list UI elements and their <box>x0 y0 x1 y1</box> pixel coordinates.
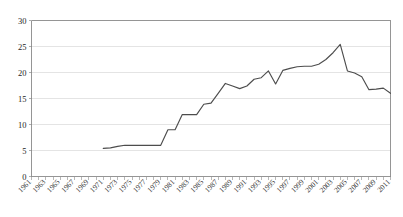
y-tick-label: 10 <box>18 120 27 130</box>
y-tick-label: 5 <box>22 146 26 156</box>
x-tick-label: 1999 <box>289 177 306 194</box>
x-tick-label: 1985 <box>188 177 205 194</box>
y-tick-label: 30 <box>18 16 27 26</box>
x-tick-label: 1987 <box>203 177 220 194</box>
x-tick-label: 1991 <box>231 177 248 194</box>
gridlines <box>32 47 391 151</box>
x-tick-label: 2009 <box>361 177 378 194</box>
y-tick-label: 25 <box>18 42 27 52</box>
y-tick-label: 20 <box>18 68 27 78</box>
series-line-1 <box>103 44 390 148</box>
x-tick-label: 1995 <box>260 177 277 194</box>
chart-canvas: 051015202530 196119631965196719691971197… <box>0 0 403 217</box>
x-tick-label: 1983 <box>174 177 191 194</box>
x-tick-label: 1969 <box>74 177 91 194</box>
x-tick-label: 1963 <box>30 177 47 194</box>
x-tick-label: 1997 <box>275 177 292 194</box>
x-tick-label: 1961 <box>16 177 33 194</box>
x-tick-label: 1971 <box>88 177 105 194</box>
x-tick-label: 2005 <box>332 177 349 194</box>
data-series <box>103 44 390 148</box>
x-tick-label: 1975 <box>117 177 134 194</box>
x-tick-label: 1965 <box>45 177 62 194</box>
x-tick-label: 2001 <box>303 177 320 194</box>
y-axis-tick-labels: 051015202530 <box>18 16 27 182</box>
line-chart: 051015202530 196119631965196719691971197… <box>0 0 403 217</box>
x-tick-label: 1981 <box>160 177 177 194</box>
y-tick-label: 15 <box>18 94 27 104</box>
x-tick-label: 2011 <box>375 177 392 194</box>
x-tick-label: 2003 <box>318 177 335 194</box>
x-tick-label: 2007 <box>346 177 363 194</box>
x-tick-label: 1979 <box>145 177 162 194</box>
x-tick-label: 1973 <box>102 177 119 194</box>
x-axis-tick-labels: 1961196319651967196919711973197519771979… <box>16 177 392 194</box>
x-tick-label: 1993 <box>246 177 263 194</box>
x-tick-label: 1977 <box>131 177 148 194</box>
x-tick-label: 1989 <box>217 177 234 194</box>
x-tick-label: 1967 <box>59 177 76 194</box>
